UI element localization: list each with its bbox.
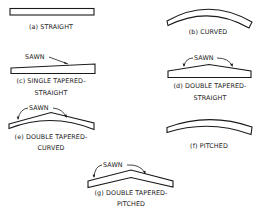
caption-e-line2: CURVED — [37, 144, 64, 152]
panel-f-pitched: (f) PITCHED — [167, 120, 252, 150]
caption-b: (b) CURVED — [189, 28, 228, 36]
arrowhead-icon — [93, 175, 95, 179]
panel-g-double-tapered-pitched: SAWN (g) DOUBLE TAPERED- PITCHED — [88, 161, 173, 208]
sawn-label-c: SAWN — [25, 53, 45, 61]
arrowhead-icon — [230, 64, 233, 68]
double-tapered-curved-beam-shape — [9, 113, 94, 130]
panel-e-double-tapered-curved: SAWN (e) DOUBLE TAPERED- CURVED — [9, 104, 94, 152]
sawn-label-g: SAWN — [103, 161, 123, 169]
caption-e-line1: (e) DOUBLE TAPERED- — [15, 133, 88, 141]
caption-g-line1: (g) DOUBLE TAPERED- — [95, 189, 168, 197]
sawn-arrow-g-left — [94, 165, 102, 177]
sawn-arrow-d-right — [217, 58, 232, 66]
sawn-arrow-d-left — [184, 58, 193, 66]
caption-c-line2: STRAIGHT — [35, 89, 68, 97]
caption-c-line1: (c) SINGLE TAPERED- — [16, 77, 85, 85]
curved-beam-shape — [167, 9, 252, 28]
double-tapered-straight-beam-shape — [168, 65, 251, 78]
sawn-label-d: SAWN — [194, 54, 214, 62]
panel-b-curved: (b) CURVED — [167, 9, 252, 36]
double-tapered-pitched-beam-shape — [88, 170, 173, 188]
caption-f: (f) PITCHED — [190, 142, 228, 150]
panel-c-single-tapered-straight: SAWN (c) SINGLE TAPERED- STRAIGHT — [11, 53, 95, 97]
caption-d-line2: STRAIGHT — [194, 94, 227, 102]
arrowhead-icon — [64, 62, 68, 64]
caption-d-line1: (d) DOUBLE TAPERED- — [174, 82, 247, 90]
panel-a-straight: (a) STRAIGHT — [10, 9, 94, 32]
pitched-beam-shape — [167, 120, 252, 135]
glulam-beam-shapes-diagram: (a) STRAIGHT (b) CURVED SAWN (c) SINGLE … — [0, 0, 261, 209]
sawn-label-e: SAWN — [29, 104, 49, 112]
straight-beam-shape — [10, 9, 94, 16]
single-tapered-beam-shape — [11, 64, 95, 74]
arrowhead-icon — [17, 117, 19, 121]
caption-g-line2: PITCHED — [117, 200, 145, 208]
panel-d-double-tapered-straight: SAWN (d) DOUBLE TAPERED- STRAIGHT — [168, 54, 251, 102]
sawn-arrow-e-left — [18, 108, 28, 119]
arrowhead-icon — [183, 64, 185, 68]
caption-a: (a) STRAIGHT — [29, 23, 73, 31]
